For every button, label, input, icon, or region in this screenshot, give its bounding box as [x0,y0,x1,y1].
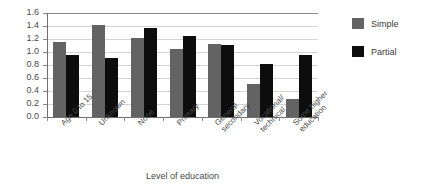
x-axis-title: Level of education [47,171,318,181]
bar-chart: 0.00.20.40.60.81.01.21.41.6 Age 0 to 15U… [0,0,433,187]
bar-simple[interactable] [92,25,105,117]
legend-label: Simple [371,19,399,29]
y-axis-tick-label: 0.6 [26,73,39,82]
legend: SimplePartial [352,18,430,74]
y-axis-tick-label: 1.6 [26,8,39,17]
y-axis-tick-label: 1.0 [26,47,39,56]
y-axis-tick-label: 0.2 [26,99,39,108]
y-axis-tick-label: 0.0 [26,112,39,121]
y-axis-tick-label: 0.8 [26,60,39,69]
legend-item[interactable]: Partial [352,46,430,57]
bar-simple[interactable] [53,42,66,117]
x-axis-labels: Age 0 to 15UnknownNonePrimaryGeneral sec… [47,119,318,169]
y-axis-tick-label: 1.4 [26,21,39,30]
legend-label: Partial [371,47,397,57]
legend-swatch-icon [352,46,364,57]
legend-swatch-icon [352,18,364,29]
legend-item[interactable]: Simple [352,18,430,29]
y-axis-tick-label: 0.4 [26,86,39,95]
y-axis: 0.00.20.40.60.81.01.21.41.6 [0,0,44,187]
y-axis-tick-label: 1.2 [26,34,39,43]
